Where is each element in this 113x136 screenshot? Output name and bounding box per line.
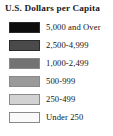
legend-item-list: 5,000 and Over 2,500-4,999 1,000-2,499 5… [0, 19, 113, 127]
legend-swatch-2500-4999 [9, 40, 40, 51]
legend-swatch-under-250 [9, 112, 40, 123]
legend-item: Under 250 [0, 109, 113, 127]
legend-title: U.S. Dollars per Capita [5, 3, 110, 14]
legend-item: 2,500-4,999 [0, 37, 113, 55]
legend-label-1000-2499: 1,000-2,499 [46, 57, 89, 69]
legend-label-5000-and-over: 5,000 and Over [46, 21, 101, 33]
legend-label-250-499: 250-499 [46, 93, 75, 105]
legend-item: 500-999 [0, 73, 113, 91]
legend-swatch-250-499 [9, 94, 40, 105]
legend-swatch-5000-and-over [9, 22, 40, 33]
legend-label-under-250: Under 250 [46, 111, 83, 123]
legend-label-2500-4999: 2,500-4,999 [46, 39, 89, 51]
legend-swatch-1000-2499 [9, 58, 40, 69]
legend-item: 1,000-2,499 [0, 55, 113, 73]
legend-label-500-999: 500-999 [46, 75, 75, 87]
legend-item: 250-499 [0, 91, 113, 109]
legend-item: 5,000 and Over [0, 19, 113, 37]
legend-swatch-500-999 [9, 76, 40, 87]
map-legend: U.S. Dollars per Capita 5,000 and Over 2… [0, 0, 113, 136]
